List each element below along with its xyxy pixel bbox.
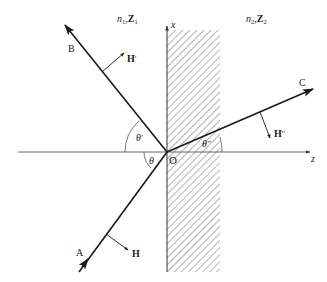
- medium-2-hatched-region: [167, 30, 220, 272]
- medium-2-label: n2,Z2: [246, 13, 267, 25]
- angle-label-reflected: θ′: [136, 132, 143, 143]
- angle-label-transmitted: θ′′: [202, 138, 211, 149]
- wave-interface-diagram: n1,Z1 n2,Z2 x z O A B C H H′ H′′ θ θ′ θ′…: [0, 0, 327, 282]
- angle-label-incident: θ: [149, 155, 154, 166]
- incident-ray-arrow: [82, 259, 88, 267]
- field-vector-H: [106, 234, 128, 250]
- field-vector-H-prime: [103, 53, 124, 71]
- field-label-H-double-prime: H′′: [274, 128, 286, 139]
- field-vector-H-double-prime: [260, 112, 270, 138]
- ray-label-C: C: [299, 77, 306, 88]
- ray-label-A: A: [76, 247, 84, 258]
- ray-label-B: B: [68, 43, 75, 54]
- z-axis-label: z: [310, 153, 315, 164]
- origin-label: O: [169, 154, 177, 166]
- x-axis-label: x: [170, 19, 176, 30]
- angle-arc-transmitted: [220, 137, 222, 152]
- field-label-H-prime: H′: [127, 53, 137, 64]
- incident-ray-A: [79, 152, 167, 272]
- medium-1-label: n1,Z1: [117, 13, 138, 25]
- reflected-ray-B: [65, 25, 167, 152]
- field-label-H: H: [132, 248, 140, 259]
